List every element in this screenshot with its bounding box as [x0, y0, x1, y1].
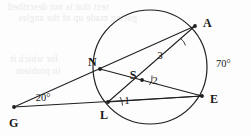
point-label-N: N — [88, 55, 97, 69]
vertex-dot-E — [200, 94, 204, 98]
angle-3-arc — [180, 38, 186, 46]
arc-measure-70: 70° — [216, 58, 231, 69]
point-label-S: S — [130, 68, 137, 82]
geometry-diagram: A N E L S G 1 2 3 20° 70° — [0, 0, 251, 136]
angle-measure-G-20: 20° — [36, 92, 51, 103]
angle-label-2: 2 — [152, 74, 158, 86]
point-label-G: G — [9, 116, 18, 130]
angle-label-3: 3 — [157, 49, 163, 61]
vertex-dot-L — [106, 100, 110, 104]
vertex-dot-A — [193, 24, 197, 28]
geometry-figure-screenshot: text that is not described guring made u… — [0, 0, 251, 136]
vertex-dot-N — [98, 67, 102, 71]
vertex-dot-S — [140, 78, 144, 82]
main-circle — [93, 10, 207, 124]
point-label-E: E — [210, 92, 218, 106]
point-label-A: A — [203, 16, 212, 30]
point-label-L: L — [100, 108, 108, 122]
vertex-dot-G — [12, 105, 16, 109]
angle-label-1: 1 — [124, 94, 130, 106]
